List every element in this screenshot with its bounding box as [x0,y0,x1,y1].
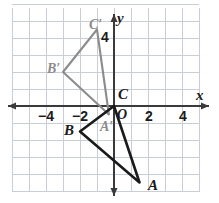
coordinate-plot-canvas [0,0,219,203]
x-tick-label--4: −4 [38,109,54,123]
y-tick-label-4: 4 [101,30,109,44]
x-tick-label-4: 4 [179,109,187,123]
vertex-label-b-prime: B′ [47,62,60,76]
origin-label: O [117,108,127,122]
vertex-label-a: A [148,178,158,193]
axis-y-label: y [117,11,124,26]
vertex-label-c: C [118,87,128,102]
axis-x-label: x [196,88,204,103]
coordinate-plane-figure: A B C A′ B′ C′ x y O −4 −2 2 4 4 [0,0,219,203]
x-tick-label-2: 2 [145,109,153,123]
vertex-label-a-prime: A′ [100,120,113,134]
x-tick-label--2: −2 [72,109,88,123]
vertex-label-b: B [64,123,74,138]
